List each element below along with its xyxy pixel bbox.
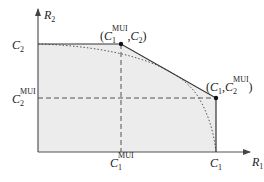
corner-right-label: (C1,C2MUI) [206,75,253,96]
x-axis-label: R1 [251,155,263,171]
tick-c2-mui: C2MUI [12,87,36,108]
tick-c2: C2 [12,38,24,54]
y-axis-label: R2 [43,8,55,24]
corner-point-right [214,96,218,100]
corner-top-label: (C1MUI,C2) [100,24,147,45]
corner-point-top [119,42,123,46]
capacity-region-diagram: R2 R1 C2 C2MUI C1MUI C1 (C1MUI,C2) (C1,C… [0,0,264,182]
tick-c1-mui: C1MUI [110,151,134,172]
tick-c1: C1 [210,156,222,172]
